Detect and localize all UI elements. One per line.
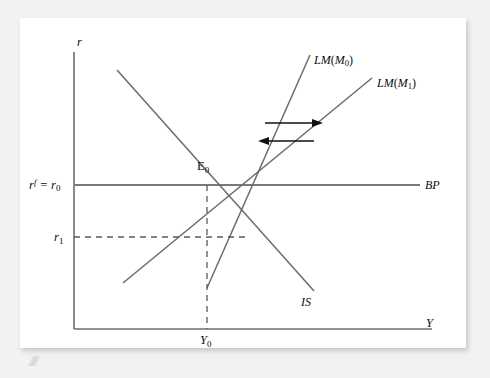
x-axis-label: Y [426,317,433,330]
page-corner-mark [24,356,40,366]
shift-right-arrow [265,119,323,127]
shift-left-arrow [258,137,314,145]
y-tick-r0-equals: = r [36,178,56,192]
figure-root: r Y rf = r0 r1 Y0 E0 LM(M0) LM(M1) IS [0,0,490,378]
y-axis-label: r [77,36,82,49]
figure-panel: r Y rf = r0 r1 Y0 E0 LM(M0) LM(M1) IS [20,18,466,348]
x-tick-y0-subscript: 0 [207,339,212,349]
lm-m1-label: LM(M1) [377,77,416,91]
y-tick-r0-subscript: 0 [56,183,61,193]
bp-label: BP [425,179,440,191]
y-tick-r1-subscript: 1 [59,236,64,246]
is-label: IS [301,296,311,308]
is-curve [117,70,314,291]
lm-m1-paren-close: ) [412,76,416,90]
e0-base: E [197,159,205,173]
e0-subscript: 0 [205,165,210,175]
lm-m1-curve [123,78,372,283]
equilibrium-point-label-e0: E0 [197,160,209,175]
x-tick-y0-base: Y [200,333,207,347]
x-tick-label-y0: Y0 [200,334,211,349]
y-tick-label-r1: r1 [54,231,63,246]
y-tick-label-r0: rf = r0 [29,178,60,193]
lm-m0-main: LM [314,53,331,67]
lm-m0-var: M [335,53,345,67]
lm-m1-main: LM [377,76,394,90]
lm-m1-var: M [398,76,408,90]
lm-m0-label: LM(M0) [314,54,353,68]
isbm-diagram-svg [20,18,466,348]
lm-m0-paren-close: ) [349,53,353,67]
